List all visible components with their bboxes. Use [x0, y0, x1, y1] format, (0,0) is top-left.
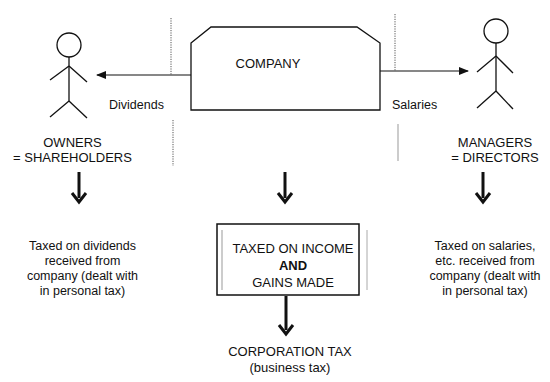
owners-label-line2: = SHAREHOLDERS	[0, 150, 145, 165]
owners-tax-line: Taxed on dividends	[0, 239, 165, 254]
tax-down-arrow-icon	[279, 296, 293, 334]
owners-label-line1: OWNERS	[0, 135, 145, 150]
tax-box-text: TAXED ON INCOME AND GAINS MADE	[218, 240, 368, 291]
corporation-tax-label: CORPORATION TAX (business tax)	[210, 344, 370, 376]
manager-stick-figure-icon	[477, 19, 513, 109]
tax-box-line2: AND	[218, 257, 368, 274]
owners-tax-note: Taxed on dividends received from company…	[0, 239, 165, 299]
corporation-tax-line1: CORPORATION TAX	[210, 344, 370, 360]
tax-box-line1: TAXED ON INCOME	[218, 240, 368, 257]
company-down-arrow-icon	[278, 172, 292, 202]
owners-tax-line: company (dealt with	[0, 269, 165, 284]
managers-label: MANAGERS = DIRECTORS	[440, 135, 550, 165]
managers-down-arrow-icon	[476, 172, 490, 202]
owners-tax-line: received from	[0, 254, 165, 269]
dividends-label: Dividends	[109, 98, 164, 113]
salaries-label: Salaries	[392, 98, 437, 113]
managers-tax-line: etc. received from	[420, 254, 550, 269]
managers-tax-note: Taxed on salaries, etc. received from co…	[420, 239, 550, 299]
corporation-tax-line2: (business tax)	[210, 360, 370, 376]
owner-stick-figure-icon	[50, 33, 87, 118]
owners-down-arrow-icon	[72, 172, 86, 202]
managers-tax-line: Taxed on salaries,	[420, 239, 550, 254]
company-tax-diagram: COMPANY Dividends Salaries OWNERS = SHAR…	[0, 0, 550, 382]
managers-tax-line: company (dealt with	[420, 269, 550, 284]
owners-tax-line: in personal tax)	[0, 284, 165, 299]
managers-label-line2: = DIRECTORS	[440, 150, 550, 165]
managers-tax-line: in personal tax)	[420, 284, 550, 299]
company-label: COMPANY	[192, 56, 344, 71]
managers-label-line1: MANAGERS	[440, 135, 550, 150]
tax-box-line3: GAINS MADE	[218, 274, 368, 291]
owners-label: OWNERS = SHAREHOLDERS	[0, 135, 145, 165]
